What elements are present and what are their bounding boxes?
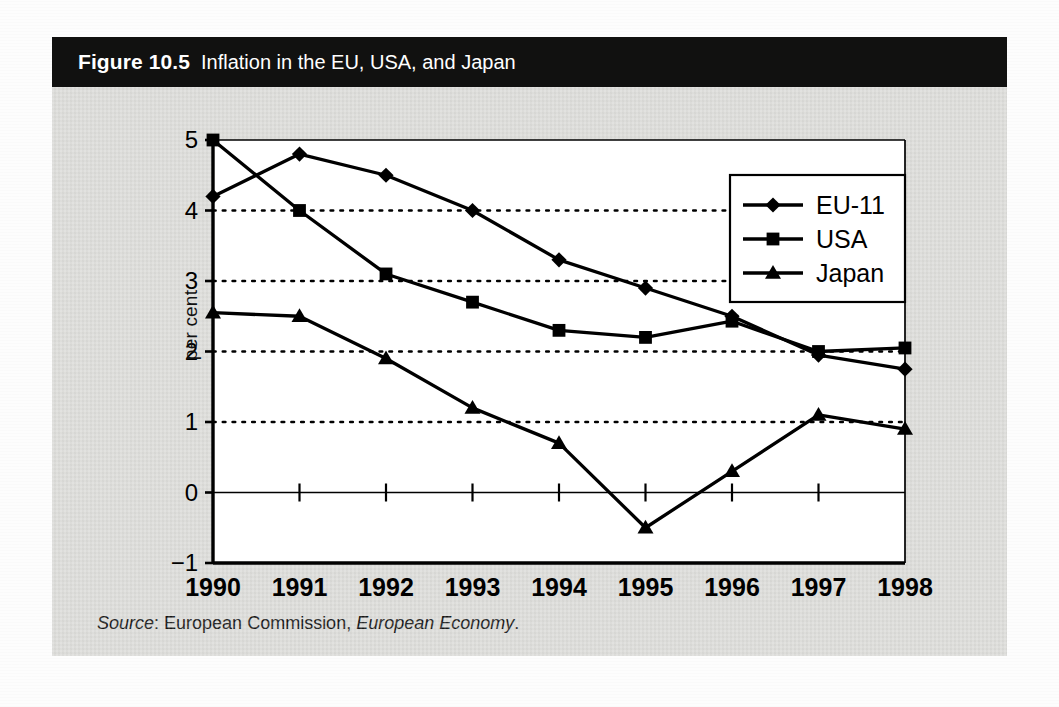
y-tick-label: 5 bbox=[185, 126, 198, 153]
figure-title-banner: Figure 10.5 Inflation in the EU, USA, an… bbox=[52, 37, 1007, 87]
marker-square bbox=[767, 233, 780, 246]
x-tick-label: 1998 bbox=[877, 573, 933, 601]
x-tick-label: 1990 bbox=[185, 573, 241, 601]
marker-square bbox=[639, 331, 652, 344]
marker-square bbox=[466, 296, 479, 309]
x-tick-label: 1997 bbox=[791, 573, 847, 601]
x-tick-label: 1991 bbox=[272, 573, 328, 601]
page-background: Figure 10.5 Inflation in the EU, USA, an… bbox=[0, 0, 1059, 707]
y-tick-label: 4 bbox=[185, 197, 198, 224]
marker-square bbox=[207, 134, 220, 147]
x-tick-label: 1996 bbox=[704, 573, 760, 601]
figure-number: Figure 10.5 bbox=[78, 50, 190, 74]
marker-square bbox=[899, 342, 912, 355]
y-tick-label: 1 bbox=[185, 408, 198, 435]
figure-title: Inflation in the EU, USA, and Japan bbox=[201, 51, 516, 74]
marker-square bbox=[380, 268, 393, 281]
x-tick-label: 1994 bbox=[531, 573, 587, 601]
marker-square bbox=[726, 315, 739, 328]
legend-label: EU-11 bbox=[816, 191, 885, 219]
legend-label: Japan bbox=[816, 259, 884, 287]
chart-legend: EU-11USAJapan bbox=[730, 175, 905, 302]
y-tick-label: −1 bbox=[171, 549, 198, 576]
legend-label: USA bbox=[816, 225, 868, 253]
x-tick-label: 1995 bbox=[618, 573, 674, 601]
y-axis-label: per cent bbox=[180, 265, 202, 385]
marker-square bbox=[293, 204, 306, 217]
x-tick-label: 1992 bbox=[358, 573, 414, 601]
figure-container: Figure 10.5 Inflation in the EU, USA, an… bbox=[52, 37, 1007, 656]
x-tick-label: 1993 bbox=[445, 573, 501, 601]
marker-square bbox=[553, 324, 566, 337]
marker-square bbox=[812, 345, 825, 358]
chart-plot-area: −101234519901991199219931994199519961997… bbox=[52, 37, 1007, 656]
y-tick-label: 0 bbox=[185, 479, 198, 506]
